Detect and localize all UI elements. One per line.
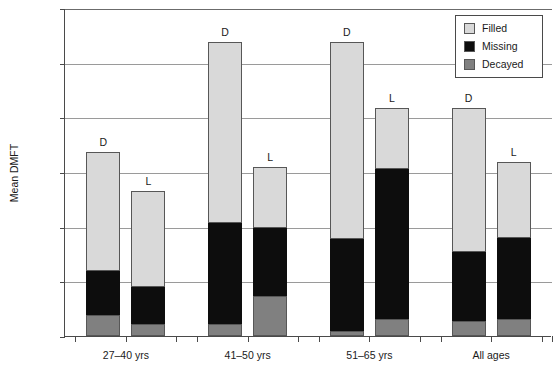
bar-segment-decayed — [208, 324, 242, 336]
bar-segment-filled — [452, 108, 486, 252]
x-tick-mark — [420, 336, 421, 342]
bar-segment-missing — [86, 271, 120, 315]
legend-item-decayed: Decayed — [464, 59, 534, 70]
bar-segment-decayed — [330, 331, 364, 336]
bar-segment-filled — [131, 191, 165, 287]
bar-4150yrs-L[interactable]: L — [253, 167, 287, 336]
x-tick-mark — [126, 336, 127, 342]
bar-tag-label: L — [267, 151, 273, 163]
x-tick-mark — [369, 336, 370, 342]
bar-segment-filled — [253, 167, 287, 228]
y-tick-mark-12 — [60, 9, 65, 10]
chart-container: Mean DMFT 024681012DLDLDLDL27–40 yrs41–5… — [0, 0, 559, 365]
bar-5165yrs-D[interactable]: D — [330, 42, 364, 336]
x-tick-mark — [248, 336, 249, 342]
x-group-label-2: 51–65 yrs — [346, 349, 392, 361]
bar-segment-missing — [330, 239, 364, 331]
bar-segment-filled — [375, 108, 409, 169]
bar-segment-decayed — [86, 315, 120, 336]
y-axis-label-wrapper: Mean DMFT — [16, 9, 30, 337]
bar-tag-label: L — [389, 92, 395, 104]
bar-tag-label: D — [221, 26, 229, 38]
bar-Allages-D[interactable]: D — [452, 108, 486, 336]
x-tick-mark — [542, 336, 543, 342]
legend-swatch-filled-icon — [464, 23, 475, 34]
x-tick-mark — [298, 336, 299, 342]
x-group-label-3: All ages — [472, 349, 509, 361]
bar-segment-decayed — [375, 319, 409, 336]
x-tick-mark — [441, 336, 442, 342]
legend-item-filled: Filled — [464, 23, 534, 34]
bar-segment-filled — [497, 162, 531, 237]
legend-label-filled: Filled — [482, 23, 507, 34]
bar-2740yrs-L[interactable]: L — [131, 191, 165, 336]
legend-swatch-decayed-icon — [464, 59, 475, 70]
x-tick-mark — [176, 336, 177, 342]
bar-segment-missing — [375, 169, 409, 319]
y-tick-mark-6 — [60, 173, 65, 174]
y-tick-mark-4 — [60, 228, 65, 229]
y-tick-mark-8 — [60, 118, 65, 119]
bar-segment-decayed — [131, 324, 165, 336]
bar-segment-missing — [497, 238, 531, 319]
bar-2740yrs-D[interactable]: D — [86, 152, 120, 337]
y-axis-label: Mean DMFT — [8, 144, 20, 202]
bar-segment-missing — [253, 228, 287, 297]
legend-label-missing: Missing — [482, 41, 518, 52]
legend-swatch-missing-icon — [464, 41, 475, 52]
bar-tag-label: L — [145, 175, 151, 187]
x-group-label-0: 27–40 yrs — [103, 349, 149, 361]
x-tick-mark — [319, 336, 320, 342]
bar-segment-decayed — [253, 296, 287, 336]
bar-segment-missing — [208, 223, 242, 324]
bar-segment-filled — [208, 42, 242, 222]
bar-Allages-L[interactable]: L — [497, 162, 531, 336]
bar-segment-decayed — [497, 319, 531, 336]
y-tick-mark-0 — [60, 337, 65, 338]
bar-tag-label: D — [343, 26, 351, 38]
bar-tag-label: D — [100, 136, 108, 148]
bar-segment-missing — [452, 252, 486, 321]
gridline-12 — [65, 9, 552, 10]
x-tick-mark — [552, 336, 553, 342]
bar-tag-label: D — [465, 92, 473, 104]
y-tick-mark-10 — [60, 64, 65, 65]
bar-4150yrs-D[interactable]: D — [208, 42, 242, 336]
bar-5165yrs-L[interactable]: L — [375, 108, 409, 336]
x-tick-mark — [491, 336, 492, 342]
bar-tag-label: L — [511, 146, 517, 158]
bar-segment-filled — [86, 152, 120, 271]
y-tick-mark-2 — [60, 282, 65, 283]
bar-segment-decayed — [452, 321, 486, 336]
legend-item-missing: Missing — [464, 41, 534, 52]
x-group-label-1: 41–50 yrs — [225, 349, 271, 361]
chart-legend: Filled Missing Decayed — [455, 15, 543, 78]
legend-label-decayed: Decayed — [482, 59, 523, 70]
x-tick-mark — [75, 336, 76, 342]
x-tick-mark — [197, 336, 198, 342]
bar-segment-filled — [330, 42, 364, 239]
bar-segment-missing — [131, 287, 165, 324]
